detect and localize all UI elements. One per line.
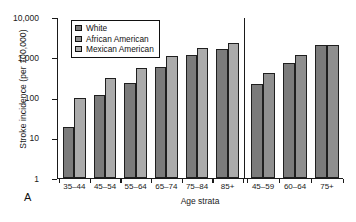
x-axis-line	[57, 178, 343, 179]
x-tick-label: 65–74	[155, 182, 177, 191]
legend: WhiteAfrican AmericanMexican American	[71, 20, 160, 58]
bar	[197, 48, 208, 178]
x-tick	[243, 179, 244, 183]
x-tick	[247, 179, 248, 183]
bar	[166, 56, 177, 177]
panel-divider-line	[244, 18, 245, 179]
bar	[63, 127, 74, 178]
x-tick-label: 85+	[221, 182, 235, 191]
bar	[74, 98, 85, 178]
legend-item: African American	[75, 34, 154, 45]
bar	[124, 83, 135, 178]
bar	[315, 45, 327, 177]
legend-item: White	[75, 23, 154, 34]
x-tick-label: 75–84	[186, 182, 208, 191]
bar	[94, 95, 105, 178]
x-tick	[182, 179, 183, 183]
bar	[136, 68, 147, 177]
y-axis-line	[57, 18, 58, 179]
legend-item-label: African American	[86, 34, 149, 45]
x-tick	[212, 179, 213, 183]
y-tick-label: 10,000	[0, 13, 39, 23]
y-tick	[52, 179, 57, 180]
x-tick	[90, 179, 91, 183]
bar	[216, 49, 227, 178]
stroke-incidence-figure: Stroke incidence (per 100,000) 10,0001,0…	[0, 0, 356, 222]
legend-item: Mexican American	[75, 44, 154, 55]
y-tick	[52, 18, 57, 19]
bar	[105, 78, 116, 178]
y-tick-label: 100	[0, 93, 39, 103]
x-tick	[59, 179, 60, 183]
bar	[295, 55, 307, 178]
bar	[251, 84, 263, 177]
panel-letter: A	[24, 191, 31, 203]
x-tick-label: 45–54	[94, 182, 116, 191]
bar	[327, 45, 339, 177]
legend-item-label: Mexican American	[86, 44, 154, 55]
legend-item-label: White	[86, 23, 107, 34]
x-tick-label: 45–59	[252, 182, 274, 191]
x-tick	[120, 179, 121, 183]
bar	[263, 73, 275, 178]
x-tick	[311, 179, 312, 183]
y-tick	[52, 139, 57, 140]
y-axis-title: Stroke incidence (per 100,000)	[18, 4, 28, 174]
y-tick	[52, 99, 57, 100]
y-tick	[52, 58, 57, 59]
legend-swatch-icon	[75, 46, 82, 52]
bar	[186, 55, 197, 177]
bar	[228, 43, 239, 177]
y-tick-label: 1	[0, 174, 39, 184]
x-axis-title: Age strata	[57, 196, 343, 206]
x-tick	[279, 179, 280, 183]
x-tick-label: 60–64	[284, 182, 306, 191]
x-tick-label: 35–44	[63, 182, 85, 191]
x-tick	[151, 179, 152, 183]
bar	[283, 63, 295, 178]
x-tick-label: 75+	[320, 182, 334, 191]
x-tick	[343, 179, 344, 183]
legend-swatch-icon	[75, 36, 82, 42]
x-tick-label: 55–64	[125, 182, 147, 191]
y-tick-label: 1,000	[0, 53, 39, 63]
bar	[155, 67, 166, 178]
y-tick-label: 10	[0, 133, 39, 143]
legend-swatch-icon	[75, 25, 82, 31]
